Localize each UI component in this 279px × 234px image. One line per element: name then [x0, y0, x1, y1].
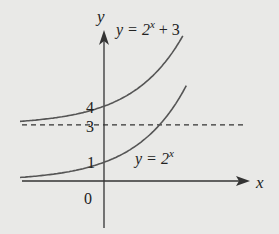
tick-label-1: 1	[87, 154, 95, 171]
tick-label-4: 4	[86, 99, 94, 116]
series-label-upper: y = 2x + 3	[114, 18, 180, 39]
curve-2-pow-x-plus-3	[20, 36, 183, 122]
plot-area	[20, 30, 250, 228]
origin-label: 0	[84, 190, 92, 207]
x-axis-label: x	[255, 173, 264, 192]
series-label-lower: y = 2x	[133, 147, 174, 168]
tick-label-3: 3	[86, 118, 94, 135]
chart: y x 0 1 3 4 y = 2x + 3 y = 2x	[0, 0, 279, 234]
y-axis-label: y	[95, 7, 105, 26]
